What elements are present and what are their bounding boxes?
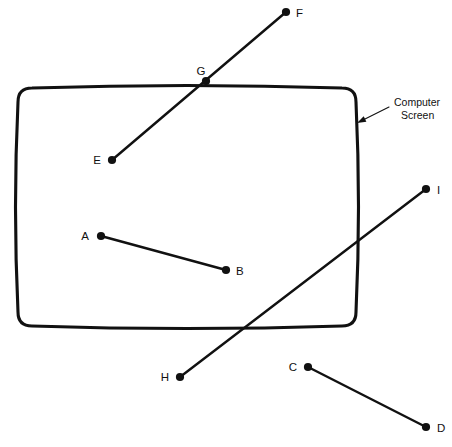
point-dot-b — [222, 266, 230, 274]
segment-h-i — [180, 189, 426, 377]
point-label-h: H — [161, 371, 169, 383]
segments-group — [101, 12, 426, 427]
callout-leader-line — [362, 107, 389, 121]
computer-screen-callout: Computer Screen — [357, 96, 441, 123]
callout-label-line-1: Computer — [394, 96, 441, 108]
callout-label-line-2: Screen — [401, 109, 434, 121]
point-labels-group: ABCDEFGHI — [81, 7, 445, 434]
point-label-d: D — [437, 422, 445, 434]
point-dot-f — [282, 8, 290, 16]
diagram-canvas: ABCDEFGHI Computer Screen — [0, 0, 452, 447]
point-label-i: I — [437, 184, 440, 196]
point-label-a: A — [81, 230, 89, 242]
point-dot-i — [422, 185, 430, 193]
endpoint-dots-group — [97, 8, 430, 431]
point-label-b: B — [236, 265, 244, 277]
point-dot-e — [108, 156, 116, 164]
point-label-g: G — [197, 65, 206, 77]
point-dot-h — [176, 373, 184, 381]
line-segments-figure: ABCDEFGHI Computer Screen — [0, 0, 452, 447]
point-label-c: C — [289, 361, 297, 373]
point-label-e: E — [93, 154, 101, 166]
point-label-f: F — [296, 7, 303, 19]
segment-a-b — [101, 236, 226, 270]
point-dot-c — [304, 363, 312, 371]
point-dot-g — [202, 77, 210, 85]
point-dot-a — [97, 232, 105, 240]
segment-c-d — [308, 367, 426, 427]
point-dot-d — [422, 423, 430, 431]
callout-arrow-icon — [357, 116, 366, 123]
computer-screen-outline — [16, 86, 359, 329]
